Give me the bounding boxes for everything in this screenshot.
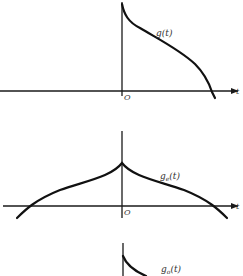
axis-label-t: t [236,87,240,96]
g-curve [122,4,215,98]
panel-go: go(t) [123,243,182,276]
axis-label-t: t [236,202,240,211]
panel-g: g(t) O t [0,2,240,102]
origin-label: O [124,93,131,102]
signal-decomposition-figure: g(t) O t ge(t) O t go(t) [0,0,243,276]
go-curve [123,256,146,276]
curve-label-go: go(t) [161,264,182,275]
curve-label-g: g(t) [156,28,173,38]
origin-label: O [124,208,131,217]
panel-ge: ge(t) O t [3,131,240,218]
curve-label-ge: ge(t) [160,171,180,182]
